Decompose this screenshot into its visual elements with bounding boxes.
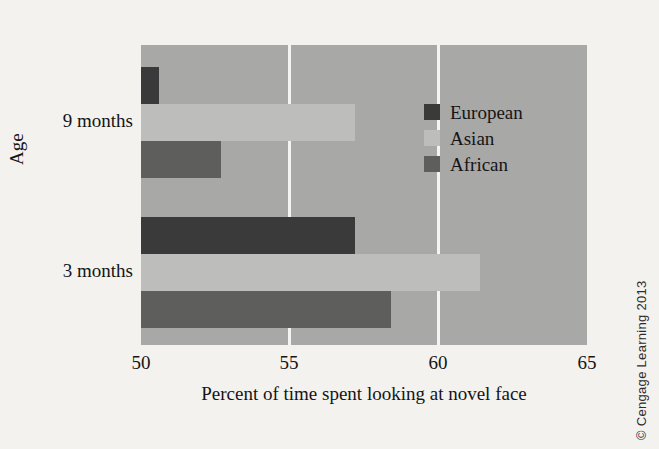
x-tick-label-55: 55: [280, 352, 299, 374]
legend-label-european: European: [450, 103, 523, 122]
bar-african-3-months: [141, 291, 391, 328]
gridline-60: [437, 45, 440, 345]
plot-area: [141, 45, 587, 345]
legend-swatch-asian-icon: [424, 130, 440, 146]
x-axis-title: Percent of time spent looking at novel f…: [141, 383, 587, 405]
y-axis-title: Age: [6, 133, 28, 165]
legend: EuropeanAsianAfrican: [424, 100, 523, 178]
x-tick-label-50: 50: [132, 352, 151, 374]
x-tick-label-65: 65: [578, 352, 597, 374]
chart-screenshot: Age 9 months 3 months 50 55 60 65 Percen…: [0, 0, 659, 449]
legend-swatch-african-icon: [424, 156, 440, 172]
legend-label-african: African: [450, 155, 508, 174]
y-tick-label-9-months: 9 months: [0, 110, 133, 132]
y-tick-label-3-months: 3 months: [0, 260, 133, 282]
bar-asian-9-months: [141, 104, 355, 141]
bar-european-3-months: [141, 217, 355, 254]
legend-item-asian: Asian: [424, 126, 523, 150]
legend-label-asian: Asian: [450, 129, 494, 148]
legend-item-african: African: [424, 152, 523, 176]
legend-swatch-european-icon: [424, 104, 440, 120]
copyright-credit: © Cengage Learning 2013: [634, 280, 649, 440]
bar-asian-3-months: [141, 254, 480, 291]
x-tick-label-60: 60: [429, 352, 448, 374]
bar-european-9-months: [141, 67, 159, 104]
legend-item-european: European: [424, 100, 523, 124]
bar-african-9-months: [141, 141, 221, 178]
